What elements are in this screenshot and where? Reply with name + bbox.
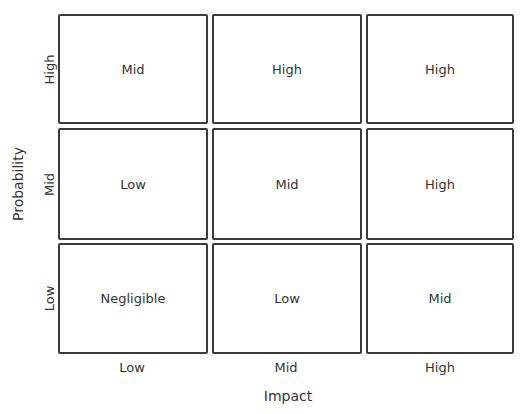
cell-mid-low: Low (58, 128, 208, 240)
cell-high-high: High (366, 14, 514, 124)
cell-low-low: Negligible (58, 243, 208, 354)
cell-label: Mid (428, 291, 451, 306)
x-axis-title: Impact (238, 388, 338, 404)
cell-label: Low (274, 291, 300, 306)
cell-label: Mid (121, 62, 144, 77)
cell-label: Negligible (101, 291, 166, 306)
cell-high-mid: High (212, 14, 362, 124)
cell-high-low: Mid (58, 14, 208, 124)
row-label-mid: Mid (42, 155, 57, 215)
cell-label: Mid (275, 177, 298, 192)
cell-mid-mid: Mid (212, 128, 362, 240)
row-label-high: High (42, 40, 57, 100)
col-label-mid: Mid (212, 360, 360, 375)
cell-label: High (272, 62, 302, 77)
cell-low-mid: Low (212, 243, 362, 354)
cell-low-high: Mid (366, 243, 514, 354)
cell-label: High (425, 62, 455, 77)
row-label-low: Low (42, 269, 57, 329)
y-axis-title: Probability (10, 134, 26, 234)
cell-label: High (425, 177, 455, 192)
col-label-low: Low (58, 360, 206, 375)
cell-label: Low (120, 177, 146, 192)
col-label-high: High (366, 360, 514, 375)
cell-mid-high: High (366, 128, 514, 240)
